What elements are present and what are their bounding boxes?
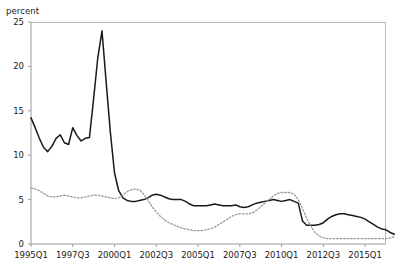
plot-canvas — [0, 0, 400, 270]
y-tick-label: 15 — [2, 106, 24, 116]
line-chart: percent 0510152025 1995Q11997Q32000Q1200… — [0, 0, 400, 270]
y-tick-label: 5 — [2, 195, 24, 205]
y-tick-label: 20 — [2, 61, 24, 71]
y-tick-label: 0 — [2, 239, 24, 249]
y-tick-label: 25 — [2, 17, 24, 27]
x-tick-label: 1995Q1 — [14, 250, 48, 260]
series-line-solid-series — [31, 31, 394, 234]
x-tick-label: 2002Q3 — [139, 250, 173, 260]
x-tick-label: 2015Q1 — [348, 250, 382, 260]
x-tick-label: 2010Q1 — [265, 250, 299, 260]
axes-group — [28, 22, 386, 247]
x-tick-label: 2012Q3 — [306, 250, 340, 260]
x-tick-label: 2000Q1 — [98, 250, 132, 260]
series-group — [31, 31, 394, 239]
x-tick-label: 2005Q1 — [181, 250, 215, 260]
x-tick-label: 2007Q3 — [223, 250, 257, 260]
y-tick-label: 10 — [2, 150, 24, 160]
x-tick-label: 1997Q3 — [56, 250, 90, 260]
